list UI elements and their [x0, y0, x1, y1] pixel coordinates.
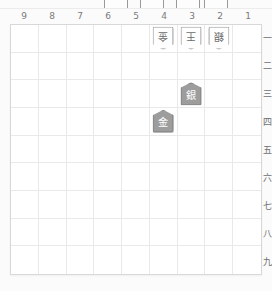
board-cell-1九[interactable]: [233, 246, 261, 274]
board-cell-3一[interactable]: 王: [178, 25, 206, 53]
row-labels: 一 二 三 四 五 六 七 八 九: [262, 24, 272, 275]
board-cell-3七[interactable]: [178, 191, 206, 219]
board-cell-3八[interactable]: [178, 219, 206, 247]
board-cell-2八[interactable]: [205, 219, 233, 247]
board-cell-7四[interactable]: [67, 108, 95, 136]
board-cell-5五[interactable]: [122, 136, 150, 164]
board-cell-8六[interactable]: [39, 163, 67, 191]
shogi-board[interactable]: 金王銀銀金: [10, 24, 262, 275]
column-label-6: 6: [94, 10, 122, 23]
board-cell-2一[interactable]: 銀: [205, 25, 233, 53]
column-label-8: 8: [38, 10, 66, 23]
board-cell-3六[interactable]: [178, 163, 206, 191]
board-cell-1三[interactable]: [233, 80, 261, 108]
board-cell-4八[interactable]: [150, 219, 178, 247]
board-cell-5九[interactable]: [122, 246, 150, 274]
board-cell-6六[interactable]: [94, 163, 122, 191]
board-cell-7七[interactable]: [67, 191, 95, 219]
board-cell-5八[interactable]: [122, 219, 150, 247]
board-cell-8八[interactable]: [39, 219, 67, 247]
board-cell-6三[interactable]: [94, 80, 122, 108]
board-cell-2四[interactable]: [205, 108, 233, 136]
board-cell-6七[interactable]: [94, 191, 122, 219]
board-cell-1七[interactable]: [233, 191, 261, 219]
board-cell-9六[interactable]: [11, 163, 39, 191]
board-cell-4一[interactable]: 金: [150, 25, 178, 53]
board-cell-2五[interactable]: [205, 136, 233, 164]
board-cell-4二[interactable]: [150, 53, 178, 81]
board-cell-1八[interactable]: [233, 219, 261, 247]
board-cell-1五[interactable]: [233, 136, 261, 164]
row-label-8: 八: [262, 219, 272, 247]
board-cell-9二[interactable]: [11, 53, 39, 81]
board-cell-8四[interactable]: [39, 108, 67, 136]
board-cell-9三[interactable]: [11, 80, 39, 108]
row-label-2: 二: [262, 52, 272, 80]
board-cell-6一[interactable]: [94, 25, 122, 53]
column-label-5: 5: [122, 10, 150, 23]
board-cell-4三[interactable]: [150, 80, 178, 108]
board-cell-8五[interactable]: [39, 136, 67, 164]
board-cell-7五[interactable]: [67, 136, 95, 164]
piece-silver-general-gote[interactable]: 銀: [208, 27, 229, 50]
board-cell-9五[interactable]: [11, 136, 39, 164]
board-cell-7二[interactable]: [67, 53, 95, 81]
board-cell-9九[interactable]: [11, 246, 39, 274]
piece-gold-general-sente[interactable]: 金: [153, 110, 174, 133]
row-label-4: 四: [262, 108, 272, 136]
board-cell-1一[interactable]: [233, 25, 261, 53]
board-cell-1二[interactable]: [233, 53, 261, 81]
board-cell-6八[interactable]: [94, 219, 122, 247]
board-cell-4六[interactable]: [150, 163, 178, 191]
board-cell-7九[interactable]: [67, 246, 95, 274]
piece-gold-general-gote[interactable]: 金: [153, 27, 174, 50]
board-cell-5七[interactable]: [122, 191, 150, 219]
board-cell-8九[interactable]: [39, 246, 67, 274]
board-cell-8一[interactable]: [39, 25, 67, 53]
strip-divider: [0, 8, 272, 9]
board-cell-2九[interactable]: [205, 246, 233, 274]
column-label-1: 1: [234, 10, 262, 23]
board-cell-4四[interactable]: 金: [150, 108, 178, 136]
board-cell-3四[interactable]: [178, 108, 206, 136]
board-cell-7八[interactable]: [67, 219, 95, 247]
board-cell-3三[interactable]: 銀: [178, 80, 206, 108]
row-label-6: 六: [262, 163, 272, 191]
piece-king-gote[interactable]: 王: [181, 27, 202, 50]
board-cell-3五[interactable]: [178, 136, 206, 164]
board-cell-5二[interactable]: [122, 53, 150, 81]
board-cell-3九[interactable]: [178, 246, 206, 274]
board-cell-6四[interactable]: [94, 108, 122, 136]
board-cell-8七[interactable]: [39, 191, 67, 219]
board-cell-1四[interactable]: [233, 108, 261, 136]
board-cell-9一[interactable]: [11, 25, 39, 53]
board-cell-4九[interactable]: [150, 246, 178, 274]
board-cell-2二[interactable]: [205, 53, 233, 81]
board-cell-4七[interactable]: [150, 191, 178, 219]
board-cell-5一[interactable]: [122, 25, 150, 53]
board-cell-5六[interactable]: [122, 163, 150, 191]
board-grid: 金王銀銀金: [11, 25, 261, 274]
board-cell-6九[interactable]: [94, 246, 122, 274]
board-cell-2六[interactable]: [205, 163, 233, 191]
board-cell-6二[interactable]: [94, 53, 122, 81]
board-cell-2三[interactable]: [205, 80, 233, 108]
board-cell-3二[interactable]: [178, 53, 206, 81]
board-cell-5四[interactable]: [122, 108, 150, 136]
board-cell-6五[interactable]: [94, 136, 122, 164]
board-cell-7一[interactable]: [67, 25, 95, 53]
board-cell-7三[interactable]: [67, 80, 95, 108]
row-label-9: 九: [262, 247, 272, 275]
board-cell-8二[interactable]: [39, 53, 67, 81]
board-cell-1六[interactable]: [233, 163, 261, 191]
board-cell-9四[interactable]: [11, 108, 39, 136]
column-labels: 9 8 7 6 5 4 3 2 1: [10, 10, 262, 23]
board-cell-7六[interactable]: [67, 163, 95, 191]
board-cell-9七[interactable]: [11, 191, 39, 219]
board-cell-2七[interactable]: [205, 191, 233, 219]
board-cell-5三[interactable]: [122, 80, 150, 108]
piece-silver-general-sente[interactable]: 銀: [181, 82, 202, 105]
board-cell-4五[interactable]: [150, 136, 178, 164]
board-cell-9八[interactable]: [11, 219, 39, 247]
board-cell-8三[interactable]: [39, 80, 67, 108]
